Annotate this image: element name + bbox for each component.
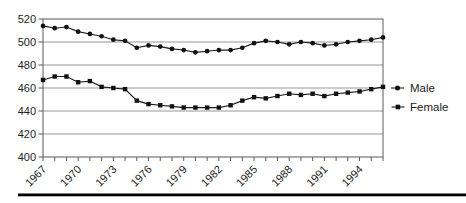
- data-point-female: [193, 105, 197, 109]
- data-point-female: [158, 103, 162, 107]
- plot-area: 4004204404604805005201967197019731976197…: [18, 13, 386, 189]
- data-point-female: [64, 74, 68, 78]
- data-point-female: [228, 103, 232, 107]
- male-marker-icon: [391, 86, 404, 91]
- y-tick-label: 440: [18, 105, 36, 117]
- data-point-male: [88, 32, 93, 37]
- data-point-female: [357, 89, 361, 93]
- legend-label-male: Male: [410, 82, 435, 94]
- data-point-male: [275, 40, 280, 45]
- data-point-male: [263, 39, 268, 44]
- data-point-female: [369, 87, 373, 91]
- data-point-male: [99, 34, 104, 39]
- data-point-male: [158, 44, 163, 49]
- x-tick-label: 1985: [234, 163, 260, 189]
- data-point-female: [205, 105, 209, 109]
- data-point-male: [123, 39, 128, 44]
- data-point-male: [310, 41, 315, 46]
- chart-legend: Male Female: [391, 82, 448, 113]
- female-marker-icon: [392, 105, 405, 110]
- data-point-male: [64, 25, 69, 30]
- data-point-male: [228, 48, 233, 53]
- data-point-male: [76, 29, 81, 34]
- data-point-male: [111, 37, 116, 42]
- data-point-female: [135, 98, 139, 102]
- data-point-female: [146, 102, 150, 106]
- chart-svg: 4004204404604805005201967197019731976197…: [0, 0, 466, 203]
- data-point-female: [99, 85, 103, 89]
- data-point-female: [346, 90, 350, 94]
- y-tick-label: 480: [18, 59, 36, 71]
- x-tick-label: 1973: [93, 163, 119, 189]
- data-point-female: [381, 85, 385, 89]
- bottom-rule-divider: [18, 194, 466, 197]
- data-point-male: [252, 41, 257, 46]
- data-point-male: [134, 45, 139, 50]
- data-point-male: [299, 40, 304, 45]
- y-tick-label: 400: [18, 151, 36, 163]
- data-point-male: [287, 42, 292, 47]
- x-tick-label: 1991: [304, 163, 330, 189]
- data-point-male: [369, 37, 374, 42]
- data-point-female: [217, 105, 221, 109]
- series-line-male: [43, 26, 383, 52]
- y-tick-label: 420: [18, 128, 36, 140]
- data-point-male: [217, 48, 222, 53]
- y-tick-label: 520: [18, 13, 36, 25]
- data-point-female: [170, 104, 174, 108]
- data-point-female: [181, 105, 185, 109]
- data-point-male: [334, 42, 339, 47]
- x-tick-label: 1982: [198, 163, 224, 189]
- x-tick-label: 1988: [269, 163, 295, 189]
- data-point-male: [381, 35, 386, 40]
- x-tick-label: 1967: [23, 163, 49, 189]
- y-tick-label: 460: [18, 82, 36, 94]
- data-point-male: [193, 50, 198, 55]
- x-tick-label: 1970: [58, 163, 84, 189]
- x-tick-label: 1979: [163, 163, 189, 189]
- data-point-female: [88, 79, 92, 83]
- data-point-female: [240, 98, 244, 102]
- data-point-male: [345, 40, 350, 45]
- chart-page: 4004204404604805005201967197019731976197…: [0, 0, 466, 203]
- data-point-male: [52, 26, 57, 31]
- data-point-female: [322, 94, 326, 98]
- data-point-female: [334, 92, 338, 96]
- data-point-male: [170, 47, 175, 52]
- data-point-female: [264, 96, 268, 100]
- data-point-female: [252, 95, 256, 99]
- data-point-female: [275, 94, 279, 98]
- data-point-male: [181, 48, 186, 53]
- data-point-male: [357, 39, 362, 44]
- data-point-male: [41, 24, 46, 29]
- x-tick-label: 1994: [339, 163, 365, 189]
- data-point-male: [205, 49, 210, 54]
- x-tick-label: 1976: [128, 163, 154, 189]
- data-point-female: [310, 92, 314, 96]
- data-point-female: [111, 86, 115, 90]
- data-point-male: [322, 43, 327, 48]
- data-point-female: [123, 87, 127, 91]
- data-point-male: [146, 43, 151, 48]
- y-tick-label: 500: [18, 36, 36, 48]
- data-point-female: [299, 93, 303, 97]
- series-line-female: [43, 77, 383, 108]
- legend-label-female: Female: [410, 101, 448, 113]
- data-point-male: [240, 45, 245, 50]
- data-point-female: [53, 74, 57, 78]
- data-point-female: [76, 80, 80, 84]
- data-point-female: [41, 78, 45, 82]
- data-point-female: [287, 92, 291, 96]
